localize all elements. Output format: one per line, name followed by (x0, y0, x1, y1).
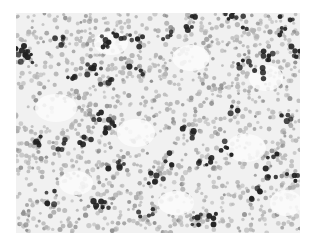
microscopy-image (16, 13, 300, 233)
cell-field (16, 13, 300, 233)
